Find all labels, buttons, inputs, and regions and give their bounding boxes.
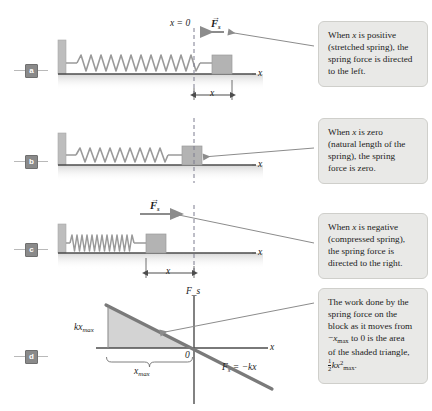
callout-d-fraction-one-half: 12 — [328, 358, 331, 372]
callout-panel-b: When x is zero (natural length of the sp… — [318, 118, 428, 184]
force-subscript-a: s — [218, 23, 221, 30]
panel-c-dimension-label: x — [166, 266, 170, 276]
graph-y-tick-label: kxmax — [74, 322, 94, 333]
callout-b-line2: (natural length of the — [328, 139, 405, 149]
panel-c-axis-label: x — [258, 247, 262, 257]
y-tick-subscript: max — [82, 326, 93, 333]
panel-a-force-vector-label: → Fs — [211, 16, 221, 30]
panel-d-artwork — [96, 296, 314, 404]
callout-b-line3: spring), the spring — [328, 151, 395, 161]
spring-force-figure: a b c d x = 0 → Fs x x x → Fs x x F_s x … — [0, 0, 432, 411]
graph-x-brace-label: xmax — [134, 366, 150, 377]
callout-a-line3: spring force is directed — [328, 54, 412, 64]
callout-b-line4: force is zero. — [328, 163, 376, 173]
force-subscript-c: s — [157, 205, 160, 212]
callout-b-line1-pre: When — [328, 127, 352, 137]
fraction-numerator: 1 — [328, 358, 331, 364]
x-brace-subscript: max — [138, 370, 149, 377]
callout-d-line6-kx: kx — [332, 360, 340, 370]
y-axis-symbol: F_s — [186, 286, 200, 296]
callout-a-line2: (stretched spring), the — [328, 42, 408, 52]
fraction-denominator: 2 — [328, 365, 331, 372]
panel-c-force-vector-label: → Fs — [150, 198, 160, 212]
callout-d-line4-sub: max — [337, 337, 348, 344]
callout-d-line2: spring force on the — [328, 309, 397, 319]
callout-c-line2: (compressed spring), — [328, 234, 405, 244]
panel-b-artwork — [58, 118, 314, 183]
force-symbol-a: F — [211, 18, 218, 29]
callout-d-line6-trail: . — [355, 360, 357, 370]
panel-c-artwork — [58, 205, 314, 278]
callout-d-line1: The work done by the — [328, 297, 409, 307]
panel-a-artwork — [58, 28, 314, 100]
panel-a-dimension-label: x — [210, 88, 214, 98]
callout-d-line3: block as it moves from — [328, 321, 412, 331]
panel-a-axis-label: x — [258, 68, 262, 78]
panel-label-a: a — [25, 64, 38, 78]
graph-y-axis-label: F_s — [186, 286, 200, 296]
callout-panel-c: When x is negative (compressed spring), … — [318, 213, 428, 279]
panel-label-c: c — [25, 243, 38, 257]
callout-d-line5: of the shaded triangle, — [328, 347, 410, 357]
callout-c-line3: the spring force is — [328, 246, 394, 256]
graph-x-axis-label: x — [270, 342, 274, 352]
callout-c-line4: directed to the right. — [328, 258, 403, 268]
callout-panel-d: The work done by the spring force on the… — [318, 288, 428, 384]
panel-label-b: b — [25, 155, 38, 169]
callout-panel-a: When x is positive (stretched spring), t… — [318, 21, 428, 87]
graph-origin-label: 0 — [185, 350, 190, 360]
callout-b-line1-post: is zero — [356, 127, 383, 137]
callout-a-line1-pre: When — [328, 30, 352, 40]
callout-d-line6-sub: max — [343, 364, 354, 371]
panel-b-axis-label: x — [258, 159, 262, 169]
equation-rest: = −kx — [230, 362, 256, 372]
callout-c-line1-post: is negative — [356, 222, 398, 232]
graph-equation-label: Fs = −kx — [222, 362, 257, 373]
callout-a-line1-post: is positive — [356, 30, 396, 40]
force-symbol-c: F — [150, 200, 157, 211]
callout-d-line4-post: to 0 is the area — [349, 333, 405, 343]
callout-c-line1-pre: When — [328, 222, 352, 232]
panel-a-origin-label: x = 0 — [170, 18, 190, 28]
callout-a-line4: to the left. — [328, 66, 366, 76]
panel-label-d: d — [25, 350, 38, 364]
